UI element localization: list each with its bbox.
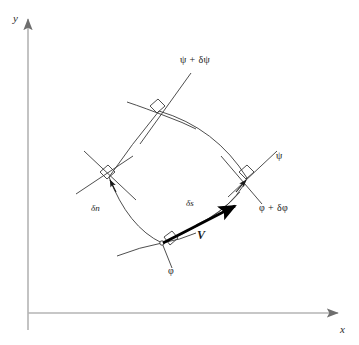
delta-n-label: δn <box>91 204 100 213</box>
flow-net-cell <box>109 111 247 243</box>
streamwise-thin-arrow-line <box>236 180 246 192</box>
left-vertex-crossing-lines <box>76 151 136 200</box>
cell-edge-top-right <box>159 111 247 178</box>
equipotential-phi-plus-line <box>221 156 262 204</box>
y-axis-label: y <box>13 13 18 24</box>
coordinate-axes <box>28 19 338 330</box>
equipotential-phi-curve <box>117 233 196 256</box>
equipotential-phi-label: φ <box>168 266 174 276</box>
equipotential-phi-plus-delta <box>221 156 262 204</box>
streamline-psi-plus-line <box>140 73 191 144</box>
streamline-psi-line <box>228 151 277 197</box>
delta-n-arrow <box>110 180 116 192</box>
delta-s-guide-curve <box>196 192 240 225</box>
equipotential-phi-plus-label: φ + δφ <box>259 203 288 213</box>
delta-s-label: δs <box>186 199 194 208</box>
flow-net-diagram <box>0 0 359 345</box>
streamline-psi-plus-label: ψ + δψ <box>180 55 210 65</box>
delta-n-arrow-line <box>110 180 116 192</box>
x-axis-label: x <box>340 324 345 335</box>
streamline-psi-label: ψ <box>276 151 283 161</box>
left-vertex-line-b <box>76 156 133 194</box>
cell-edge-bottom-left <box>109 177 162 243</box>
streamline-psi-plus-tick <box>127 102 196 129</box>
velocity-vector-label: V <box>197 229 205 241</box>
equipotential-phi <box>117 233 196 268</box>
streamline-psi <box>228 151 277 197</box>
